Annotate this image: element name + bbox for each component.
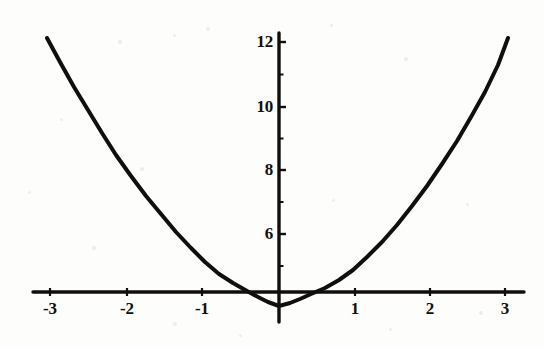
scan-speck <box>140 167 144 171</box>
y-tick-label-6: 6 <box>265 224 273 244</box>
x-tick-label-neg2: -2 <box>120 299 134 319</box>
parabola-figure: -3-2-1123 681012 <box>0 0 544 347</box>
x-tick-label-neg1: -1 <box>195 299 209 319</box>
x-tick-label-neg3: -3 <box>43 299 57 319</box>
y-tick-label-12: 12 <box>256 32 273 52</box>
scan-speck <box>389 328 392 331</box>
x-tick-label-1: 1 <box>351 299 359 319</box>
scan-speck <box>332 199 335 202</box>
scan-speck <box>118 40 122 44</box>
axis-group <box>33 33 524 322</box>
scan-speck <box>60 118 63 121</box>
x-tick-label-2: 2 <box>426 299 434 319</box>
scan-speck <box>404 57 408 61</box>
scan-speck <box>330 24 333 27</box>
y-tick-label-8: 8 <box>265 160 273 180</box>
scan-speck <box>466 203 469 206</box>
scan-speck <box>28 191 31 194</box>
scan-speck <box>479 311 483 315</box>
scan-speck <box>173 322 177 326</box>
x-tick-label-3: 3 <box>501 299 509 319</box>
scan-speck <box>173 34 176 37</box>
scan-speck <box>206 27 210 31</box>
y-tick-label-10: 10 <box>256 97 273 117</box>
scan-speck <box>239 334 242 337</box>
scan-speck <box>92 246 96 250</box>
